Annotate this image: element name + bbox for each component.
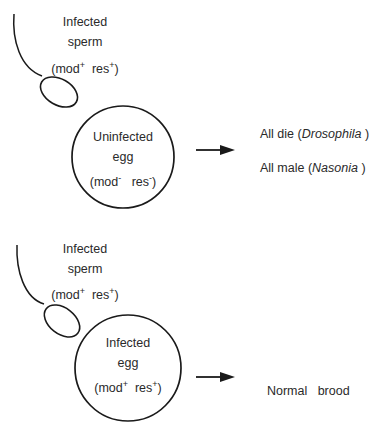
sperm-genotype: (mod+ res+) [30, 281, 140, 305]
sperm-subtitle: sperm [30, 32, 140, 52]
egg-title: Uninfected [68, 127, 178, 147]
outcome-nasonia: All male (Nasonia ) [260, 161, 366, 175]
outcome-normal-brood: Normal brood [260, 370, 350, 398]
sperm-title: Infected [30, 12, 140, 32]
outcome-drosophila: All die (Drosophila ) [260, 127, 369, 141]
egg-genotype: (mod+ res+) [73, 374, 183, 398]
egg-label-1: Uninfected egg (mod- res-) [68, 127, 178, 192]
sperm-subtitle: sperm [30, 259, 140, 279]
sperm-genotype: (mod+ res+) [30, 55, 140, 79]
sperm-title: Infected [30, 239, 140, 259]
sperm-label-2: Infected sperm (mod+ res+) [30, 239, 140, 305]
egg-subtitle: egg [68, 147, 178, 167]
arrow-head-2 [220, 372, 235, 382]
egg-subtitle: egg [73, 353, 183, 373]
egg-genotype: (mod- res-) [68, 168, 178, 192]
egg-title: Infected [73, 333, 183, 353]
egg-label-2: Infected egg (mod+ res+) [73, 333, 183, 398]
sperm-label-1: Infected sperm (mod+ res+) [30, 12, 140, 79]
arrow-head-1 [220, 145, 235, 155]
